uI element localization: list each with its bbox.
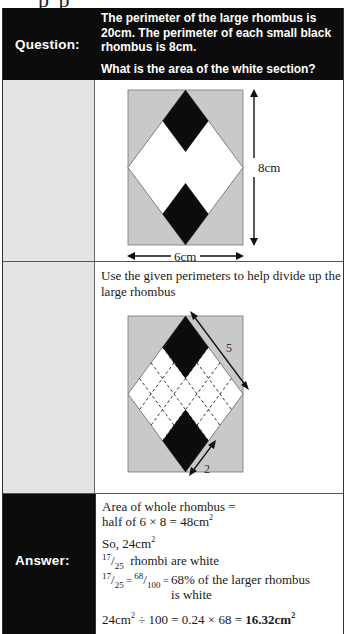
- height-label: 8cm: [258, 160, 280, 176]
- rhombus-diagram: [95, 80, 345, 262]
- question-label: Question:: [15, 37, 80, 52]
- side-label-2: 2: [204, 462, 210, 477]
- answer-line-6: 24cm2 ÷ 100 = 0.24 × 68 = 16.32cm2: [102, 612, 346, 627]
- answer-line-2: half of 6 × 8 = 48cm2: [102, 514, 346, 529]
- answer-label-cell: Answer:: [3, 494, 95, 634]
- answer-label: Answer:: [15, 553, 70, 568]
- page-heading-fragment: p p: [0, 0, 348, 8]
- step-cell: Use the given perimeters to help divide …: [95, 262, 343, 493]
- answer-line-3: So, 24cm2: [102, 536, 346, 551]
- question-text-cell: The perimeter of the large rhombus is 20…: [95, 8, 343, 80]
- fraction-17-25: 17/25: [102, 553, 124, 568]
- answer-line-4: 17/25 rhombi are white: [102, 553, 346, 568]
- diagram-row: 8cm 6cm: [3, 80, 343, 262]
- question-label-cell: Question:: [3, 8, 95, 80]
- step-label-cell: [3, 262, 95, 493]
- question-row: Question: The perimeter of the large rho…: [3, 8, 343, 80]
- answer-line-1: Area of whole rhombus =: [102, 499, 346, 514]
- question-prompt: What is the area of the white section?: [101, 62, 341, 77]
- question-text: The perimeter of the large rhombus is 20…: [101, 11, 341, 55]
- answer-row: Answer: Area of whole rhombus = half of …: [3, 494, 343, 634]
- side-label-5: 5: [226, 341, 232, 356]
- final-answer: 16.32cm: [245, 612, 291, 627]
- step-row: Use the given perimeters to help divide …: [3, 262, 343, 494]
- answer-cell: Area of whole rhombus = half of 6 × 8 = …: [95, 494, 343, 634]
- divided-rhombus-diagram: [95, 262, 345, 494]
- diagram-cell: 8cm 6cm: [95, 80, 343, 261]
- answer-line-5: 17/25 = 68/100 = 68% of the larger rhomb…: [102, 572, 346, 602]
- worked-example-table: Question: The perimeter of the large rho…: [2, 8, 344, 634]
- diagram-label-cell: [3, 80, 95, 261]
